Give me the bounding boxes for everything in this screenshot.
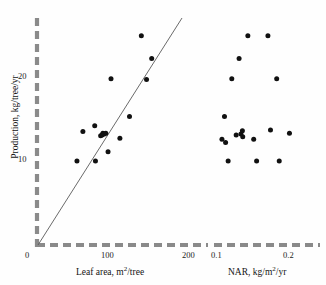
data-point xyxy=(144,77,149,82)
data-point xyxy=(226,159,231,164)
right-x-axis-title: NAR, kg/m2/yr xyxy=(228,266,286,278)
data-point xyxy=(274,76,279,81)
right-x-axis-title-text: NAR, kg/m xyxy=(228,267,272,277)
data-point xyxy=(117,136,122,141)
data-point xyxy=(245,33,250,38)
y-tick-label-20: 20 xyxy=(18,72,27,81)
data-point xyxy=(240,128,245,133)
data-point xyxy=(254,159,259,164)
data-point xyxy=(109,76,114,81)
data-point xyxy=(229,76,234,81)
data-point xyxy=(93,159,98,164)
data-point xyxy=(287,131,292,136)
right-x-tick-label-0.1: 0.1 xyxy=(211,251,222,260)
right-x-axis-title-tail: /yr xyxy=(276,267,287,277)
data-point xyxy=(240,134,245,139)
left-x-tick-label-0: 0 xyxy=(25,251,29,260)
left-x-tick-label-100: 100 xyxy=(101,251,114,260)
left-panel-point-group xyxy=(74,33,154,163)
data-point xyxy=(149,56,154,61)
data-point xyxy=(251,137,256,142)
left-x-tick-label-200: 200 xyxy=(182,251,195,260)
data-point xyxy=(277,159,282,164)
left-x-axis-title-tail: /tree xyxy=(127,267,144,277)
data-point xyxy=(103,131,108,136)
data-point xyxy=(80,129,85,134)
scatter-plot-canvas xyxy=(0,0,326,285)
right-x-tick-label-0.2: 0.2 xyxy=(283,251,294,260)
data-point xyxy=(268,127,273,132)
data-point xyxy=(106,149,111,154)
data-point xyxy=(265,33,270,38)
figure-container: Production, kg/tree/yr 20 10 0 100 200 0… xyxy=(0,0,326,285)
data-point xyxy=(127,114,132,119)
data-point xyxy=(139,33,144,38)
data-point xyxy=(92,123,97,128)
data-point xyxy=(223,140,228,145)
data-point xyxy=(222,114,227,119)
right-panel-point-group xyxy=(219,33,292,163)
y-tick-label-10: 10 xyxy=(18,155,27,164)
data-point xyxy=(234,132,239,137)
data-point xyxy=(237,56,242,61)
left-panel-fit-line xyxy=(38,18,182,245)
data-point xyxy=(74,159,79,164)
left-x-axis-title: Leaf area, m2/tree xyxy=(76,266,144,278)
left-x-axis-title-text: Leaf area, m xyxy=(76,267,124,277)
